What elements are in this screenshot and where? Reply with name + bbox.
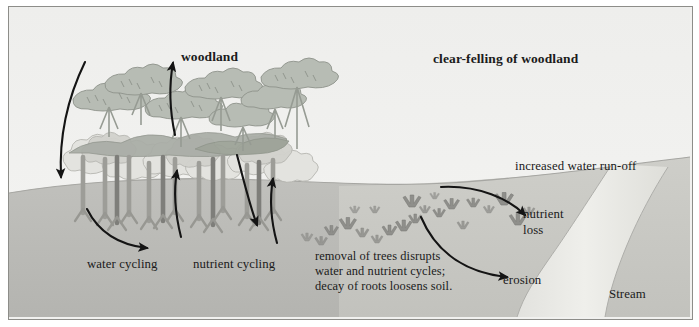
label-erosion: erosion [503,273,541,288]
figure-root: woodland clear-felling of woodland water… [0,0,699,327]
label-water-cycling: water cycling [87,257,158,272]
figure-frame: woodland clear-felling of woodland water… [8,6,693,320]
heading-woodland: woodland [181,49,238,65]
label-nutrient-cycling: nutrient cycling [193,257,275,272]
label-increased-water-run-off: increased water run-off [515,159,636,174]
label-nutrient-loss-line1: nutrient [523,207,564,222]
caption-removal-line3: decay of roots loosens soil. [315,279,452,294]
label-stream: Stream [609,287,646,302]
heading-clear-felling: clear-felling of woodland [433,51,578,67]
caption-removal-line1: removal of trees disrupts [315,249,440,264]
label-nutrient-loss-line2: loss [523,223,543,238]
caption-removal-line2: water and nutrient cycles; [315,264,445,279]
